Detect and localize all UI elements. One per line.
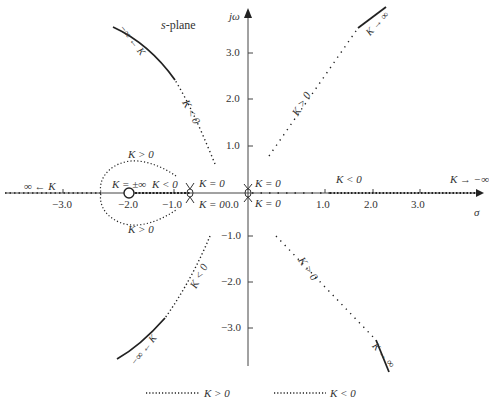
left-end-label: ∞ ← K <box>24 181 56 192</box>
xtick-label: 1.0 <box>316 199 330 210</box>
xtick-label: 3.0 <box>411 199 425 210</box>
xtick-label: −3.0 <box>52 199 72 210</box>
right-end-label: K → −∞ <box>450 174 489 185</box>
locus-kpos-lower-right-dotted <box>276 236 376 340</box>
ytick-label: 2.0 <box>226 93 240 104</box>
sigma-arrow-icon <box>476 189 484 197</box>
positive-real-kneg-label: K < 0 <box>336 174 362 185</box>
sigma-axis-label: σ <box>474 207 479 218</box>
segment-kneg-label: K < 0 <box>152 179 178 190</box>
locus-kpos-upper-right-dotted <box>269 28 358 156</box>
loop-bottom-label: K > 0 <box>128 224 154 235</box>
ytick-label: −1.0 <box>221 230 241 241</box>
xtick-label: −2.0 <box>118 199 138 210</box>
splane-label: ss-plane-plane <box>161 19 196 31</box>
jw-arrow-icon <box>244 8 252 18</box>
xtick-label: 0.0 <box>225 199 239 210</box>
zero-gain-label: K = ±∞ <box>112 179 146 190</box>
xtick-label: 2.0 <box>364 199 378 210</box>
jw-axis-label: jω <box>229 11 240 22</box>
ytick-label: 1.0 <box>226 140 240 151</box>
pole0-bottom-label: K = 0 <box>255 198 281 209</box>
imaginary-axis <box>244 8 253 366</box>
ytick-label: −3.0 <box>221 322 241 333</box>
ytick-label: 3.0 <box>226 47 240 58</box>
pole1-top-label: K = 0 <box>199 178 225 189</box>
loop-top-label: K > 0 <box>128 149 154 160</box>
pole1-bottom-label: K = 0 <box>199 199 225 210</box>
pole0-top-label: K = 0 <box>255 178 281 189</box>
legend-kpos-label: K > 0 <box>204 388 230 399</box>
xtick-label: −1.0 <box>162 199 182 210</box>
legend-kneg-label: K < 0 <box>330 388 356 399</box>
ytick-label: −2.0 <box>221 276 241 287</box>
